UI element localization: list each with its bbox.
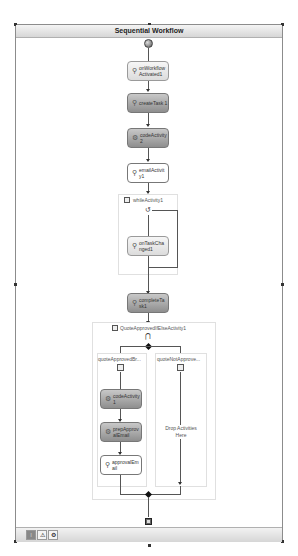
drop-activities-placeholder[interactable]: Drop Activities Here — [160, 425, 202, 439]
activity-approval-email[interactable]: ⚲ approvalEm ail — [100, 455, 142, 475]
event-icon: ⚲ — [132, 243, 137, 249]
activity-label: prepApprov alEmail — [113, 426, 141, 438]
activity-on-task-changed[interactable]: ⚲ onTaskCha nged1 — [127, 236, 169, 256]
tab-workflow-view[interactable]: ⁞ — [26, 530, 36, 540]
activity-label: codeActivity 2 — [140, 132, 168, 144]
code-icon: ⚙ — [105, 429, 111, 435]
branch-icon — [177, 364, 184, 371]
activity-label: onTaskCha nged1 — [139, 240, 168, 252]
email-icon: ⚲ — [132, 170, 137, 176]
activity-label: approvalEm ail — [112, 459, 141, 471]
activity-on-workflow-activated[interactable]: ⚲ onWorkflow Activated1 — [127, 61, 169, 81]
collapse-icon[interactable] — [112, 325, 118, 331]
cancel-handler-icon: ⚠ — [40, 532, 45, 538]
activity-email[interactable]: ⚲ emailActivit y1 — [127, 163, 169, 183]
resize-handle-l[interactable] — [14, 283, 17, 286]
code-icon: ⚙ — [132, 135, 138, 141]
activity-code-1[interactable]: ⚙ codeActivity 1 — [100, 389, 142, 409]
task-icon: ⚲ — [132, 100, 137, 106]
while-label: whileActivity1 — [133, 197, 163, 203]
tab-cancel-handler[interactable]: ⚠ — [37, 530, 47, 540]
activity-label: completeTa sk1 — [139, 297, 168, 309]
activity-label: createTask 1 — [139, 100, 167, 106]
branch-icon — [117, 364, 124, 371]
activity-label: emailActivit y1 — [139, 167, 168, 179]
event-icon: ⚲ — [132, 68, 137, 74]
activity-create-task[interactable]: ⚲ createTask 1 — [127, 93, 169, 113]
activity-code-2[interactable]: ⚙ codeActivity 2 — [127, 128, 169, 148]
branch-label: quoteApprovedBr... — [98, 356, 141, 362]
email-icon: ⚲ — [105, 462, 110, 468]
fault-handler-icon: ⚙ — [51, 532, 56, 538]
collapse-icon[interactable] — [124, 197, 130, 203]
task-icon: ⚲ — [132, 300, 137, 306]
ifelse-icon: ⋂ — [145, 332, 151, 340]
resize-handle-b[interactable] — [148, 544, 151, 547]
activity-label: onWorkflow Activated1 — [139, 65, 168, 77]
workflow-view-icon: ⁞ — [30, 532, 32, 538]
branch-not-approved[interactable] — [155, 353, 207, 487]
start-icon — [144, 39, 153, 48]
loop-icon: ↺ — [145, 206, 151, 214]
ifelse-label: QuoteApprovedIfElseActivity1 — [120, 325, 186, 331]
activity-prep-approval-email[interactable]: ⚙ prepApprov alEmail — [100, 422, 142, 442]
resize-handle-r[interactable] — [281, 283, 284, 286]
workflow-title: Sequential Workflow — [16, 25, 282, 38]
branch-label: quoteNotApprove... — [157, 356, 200, 362]
code-icon: ⚙ — [105, 396, 111, 402]
end-icon — [145, 518, 152, 525]
activity-label: codeActivity 1 — [113, 393, 141, 405]
tab-fault-handler[interactable]: ⚙ — [48, 530, 58, 540]
activity-complete-task[interactable]: ⚲ completeTa sk1 — [127, 293, 169, 313]
